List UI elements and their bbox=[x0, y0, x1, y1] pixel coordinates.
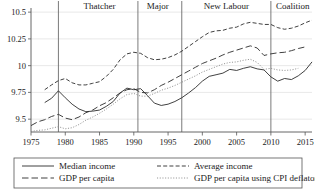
legend-label-median-income: Median income bbox=[59, 161, 115, 171]
period-label-thatcher: Thatcher bbox=[84, 1, 116, 11]
period-label-new-labour: New Labour bbox=[204, 1, 249, 11]
period-label-coalition: Coalition bbox=[276, 1, 310, 11]
y-tick-label: 9.5 bbox=[15, 114, 26, 124]
chart-axes bbox=[31, 8, 312, 132]
period-annotation-labels: ThatcherMajorNew LabourCoalition bbox=[84, 1, 311, 11]
y-axis-tick-labels: 9.59.751010.2510.5 bbox=[7, 7, 26, 124]
y-tick-label: 9.75 bbox=[11, 87, 26, 97]
chart-legend: Median incomeAverage incomeGDP per capit… bbox=[14, 158, 315, 188]
series-line-median-income bbox=[45, 62, 312, 112]
period-label-major: Major bbox=[147, 1, 169, 11]
x-tick-label: 2000 bbox=[194, 137, 211, 147]
x-tick-label: 2010 bbox=[262, 137, 279, 147]
legend-label-average-income: Average income bbox=[194, 161, 253, 171]
chart-figure: 9.59.751010.2510.5 197519801985199019952… bbox=[0, 0, 315, 192]
x-tick-label: 1980 bbox=[57, 137, 74, 147]
series-line-gdp-per-capita-using-cpi-deflator bbox=[31, 59, 298, 131]
y-tick-label: 10.5 bbox=[11, 7, 26, 17]
legend-label-gdp-per-capita: GDP per capita bbox=[59, 173, 114, 183]
x-tick-label: 1975 bbox=[23, 137, 40, 147]
x-tick-label: 2005 bbox=[228, 137, 245, 147]
series-line-gdp-per-capita bbox=[31, 46, 305, 126]
x-axis-tick-labels: 197519801985199019952000200520102015 bbox=[23, 137, 314, 147]
period-divider-lines bbox=[58, 1, 270, 132]
axis-tickmarks bbox=[28, 12, 305, 135]
y-tick-label: 10.25 bbox=[7, 34, 26, 44]
series-line-average-income bbox=[45, 20, 312, 90]
y-tick-label: 10 bbox=[18, 61, 27, 71]
x-tick-label: 2015 bbox=[297, 137, 314, 147]
legend-label-gdp-per-capita-using-cpi-deflator: GDP per capita using CPI deflator bbox=[194, 173, 315, 183]
x-tick-label: 1985 bbox=[91, 137, 108, 147]
x-tick-label: 1995 bbox=[160, 137, 177, 147]
income-gdp-line-chart: 9.59.751010.2510.5 197519801985199019952… bbox=[0, 0, 315, 192]
data-series-group bbox=[31, 20, 312, 131]
x-tick-label: 1990 bbox=[125, 137, 142, 147]
